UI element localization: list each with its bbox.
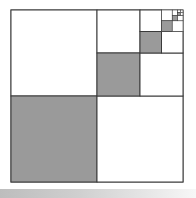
quadrant-top-left xyxy=(162,10,173,21)
quadrant-top-left xyxy=(172,10,177,15)
quadrant-bottom-left-shaded xyxy=(11,96,97,182)
quadrant-bottom-left-shaded xyxy=(140,32,162,54)
quadrant-bottom-right xyxy=(140,53,183,96)
quadrant-top-left xyxy=(97,10,140,53)
quadrant-bottom-right xyxy=(97,96,183,182)
quadrant-bottom-right xyxy=(178,15,183,20)
quadrant-top-left xyxy=(178,10,181,13)
quadrant-bottom-left-shaded xyxy=(97,53,140,96)
innermost-square xyxy=(180,10,183,13)
quadrant-bottom-right xyxy=(180,13,183,16)
quadrant-bottom-right xyxy=(162,32,184,54)
quadrant-top-left xyxy=(140,10,162,32)
quadrant-bottom-left-shaded xyxy=(162,21,173,32)
quadrant-bottom-right xyxy=(172,21,183,32)
square-subdivision-diagram xyxy=(0,0,196,190)
quadrant-bottom-left-shaded xyxy=(172,15,177,20)
bottom-gradient-bar xyxy=(0,189,196,198)
quadrant-top-left xyxy=(11,10,97,96)
quadrant-bottom-left-shaded xyxy=(178,13,181,16)
